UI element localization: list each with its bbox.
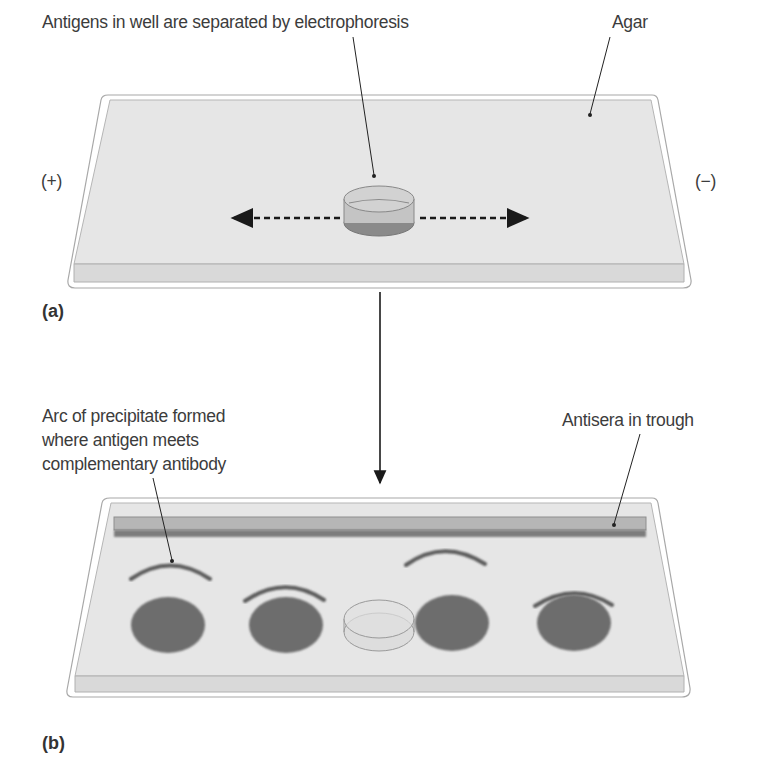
- panel-a-tray-overlay: [0, 0, 757, 780]
